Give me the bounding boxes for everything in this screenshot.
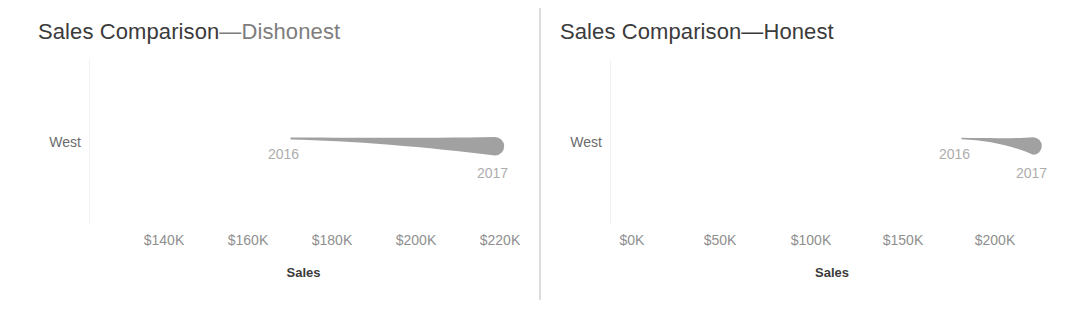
x-axis-dishonest: $140K $160K $180K $200K $220K (89, 232, 518, 252)
x-axis-title-sales: Sales (610, 265, 1054, 280)
slope-mark-honest (610, 60, 1054, 225)
x-tick-3: $150K (883, 232, 923, 248)
slope-mark-dishonest (89, 60, 518, 225)
x-axis-honest: $0K $50K $100K $150K $200K (610, 232, 1054, 252)
chart-panel-honest: Sales Comparison—Honest West 2016 2017 $… (541, 0, 1089, 316)
x-tick-2: $100K (791, 232, 831, 248)
chart-panel-dishonest: Sales Comparison—Dishonest West 2016 201… (0, 0, 539, 316)
row-label-west: West (8, 134, 81, 150)
x-tick-1: $160K (228, 232, 268, 248)
plot-area-honest: 2016 2017 (610, 60, 1054, 225)
x-axis-title-sales: Sales (89, 265, 518, 280)
x-tick-1: $50K (704, 232, 737, 248)
screenshot-root: Sales Comparison—Dishonest West 2016 201… (0, 0, 1089, 316)
y-axis-line (89, 60, 90, 225)
chart-title-primary: Sales Comparison (560, 19, 741, 44)
mark-label-start-2016: 2016 (939, 146, 970, 162)
mark-label-end-2017: 2017 (1016, 165, 1047, 181)
mark-label-start-2016: 2016 (268, 146, 299, 162)
chart-title-suffix: —Dishonest (219, 19, 340, 44)
x-tick-4: $200K (975, 232, 1015, 248)
mark-label-end-2017: 2017 (477, 165, 508, 181)
row-label-west: West (543, 134, 602, 150)
y-axis-line (610, 60, 611, 225)
x-tick-3: $200K (396, 232, 436, 248)
x-tick-0: $0K (620, 232, 645, 248)
chart-title-suffix: —Honest (741, 19, 833, 44)
chart-title-dishonest: Sales Comparison—Dishonest (38, 19, 340, 45)
x-tick-0: $140K (144, 232, 184, 248)
x-tick-4: $220K (480, 232, 520, 248)
chart-title-primary: Sales Comparison (38, 19, 219, 44)
chart-title-honest: Sales Comparison—Honest (560, 19, 834, 45)
plot-area-dishonest: 2016 2017 (89, 60, 518, 225)
x-tick-2: $180K (312, 232, 352, 248)
